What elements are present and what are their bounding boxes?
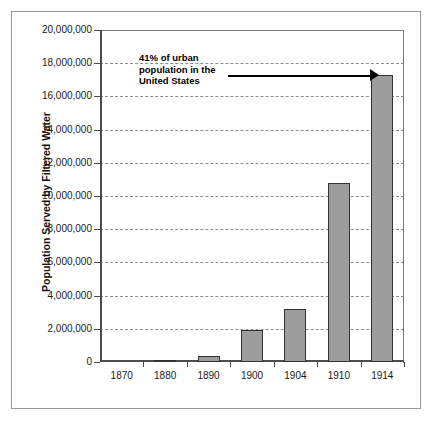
annotation-arrow-head-icon xyxy=(370,69,379,81)
y-axis-tick-label: 10,000,000 xyxy=(0,191,92,201)
y-axis-tick-label: 20,000,000 xyxy=(0,25,92,35)
bar xyxy=(284,309,306,362)
bar xyxy=(198,356,220,362)
bar xyxy=(154,360,176,362)
y-axis-tick-label: 6,000,000 xyxy=(0,257,92,267)
x-axis-tick xyxy=(274,362,275,367)
bar xyxy=(371,75,393,362)
x-axis-tick xyxy=(230,362,231,367)
y-axis-tick-label: 12,000,000 xyxy=(0,158,92,168)
y-axis-tick-label: 2,000,000 xyxy=(0,324,92,334)
x-axis-tick xyxy=(317,362,318,367)
y-axis-tick-label: 16,000,000 xyxy=(0,91,92,101)
x-axis-tick xyxy=(187,362,188,367)
y-axis-tick-label: 18,000,000 xyxy=(0,58,92,68)
x-axis-tick xyxy=(404,362,405,367)
x-axis-tick xyxy=(143,362,144,367)
annotation-label: 41% of urban population in the United St… xyxy=(139,52,216,87)
bar xyxy=(241,330,263,362)
y-axis-tick-label: 0 xyxy=(0,357,92,367)
y-axis-tick-label: 4,000,000 xyxy=(0,291,92,301)
x-axis-tick-label: 1914 xyxy=(352,370,412,382)
y-axis-tick-label: 8,000,000 xyxy=(0,224,92,234)
chart-figure: Population Served by Filtered Water 02,0… xyxy=(0,0,433,421)
y-axis-tick-label: 14,000,000 xyxy=(0,125,92,135)
annotation-arrow-line xyxy=(228,75,374,77)
y-axis-tick xyxy=(94,362,100,363)
bar xyxy=(328,183,350,362)
x-axis-tick xyxy=(361,362,362,367)
